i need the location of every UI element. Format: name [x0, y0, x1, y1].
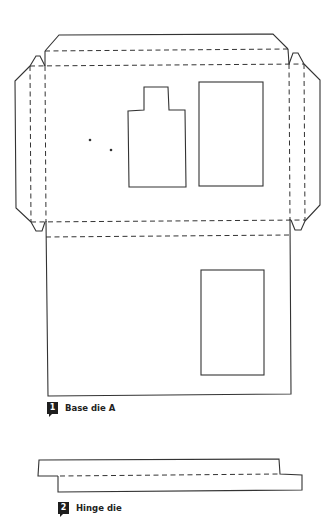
fold-line-mid-1 [31, 220, 305, 222]
fold-line-mid-2 [46, 235, 290, 237]
number-badge: 1 [47, 402, 58, 414]
marker-dot [89, 139, 92, 142]
bottle-window-cutout [128, 87, 186, 187]
left-side-flap [15, 66, 31, 222]
fold-line-left-outer [30, 66, 31, 222]
hinge-die-fold-line [60, 474, 278, 476]
main-panel-edge [288, 49, 289, 64]
top-flap-outline [45, 34, 288, 51]
lower-rect-window-cutout [201, 270, 264, 375]
fold-line-right-outer [304, 64, 305, 221]
die-label-2: 2 Hinge die [58, 502, 122, 514]
base-die-a-diagram [0, 0, 324, 532]
fold-line-top-2 [30, 64, 304, 66]
fold-line-top-1 [45, 49, 288, 51]
die-label-text: Base die A [65, 403, 115, 413]
number-badge: 2 [58, 502, 69, 514]
lower-panel-outline [46, 219, 291, 396]
fold-line-right-inner [289, 64, 290, 220]
marker-dot [110, 149, 113, 152]
top-right-tab [289, 53, 304, 64]
die-label-1: 1 Base die A [47, 402, 115, 414]
right-side-flap [304, 64, 320, 221]
die-label-text: Hinge die [76, 503, 122, 513]
upper-rect-window-cutout [199, 82, 263, 186]
top-left-tab [30, 56, 45, 66]
bottom-right-tab [291, 220, 305, 230]
fold-line-left-inner [45, 66, 46, 222]
bottom-left-tab [31, 222, 45, 231]
